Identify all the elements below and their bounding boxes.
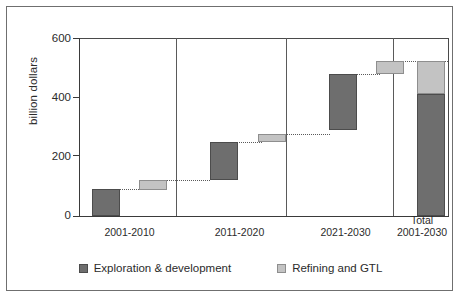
legend-swatch-refining-icon — [277, 264, 286, 273]
legend-swatch-exploration-icon — [79, 264, 88, 273]
chart-frame: billion dollars 600 400 200 0 2001-2 — [6, 6, 453, 291]
legend-label-exploration: Exploration & development — [94, 262, 231, 274]
x-label-2001-2010: 2001-2010 — [82, 226, 177, 238]
legend-item-refining: Refining and GTL — [277, 262, 382, 274]
group-separator-1 — [176, 38, 177, 216]
bar-exploration-2021-2030 — [329, 74, 357, 130]
bar-refining-total — [417, 61, 445, 94]
x-label-2021-2030: 2021-2030 — [298, 226, 393, 238]
connector-4 — [286, 134, 330, 135]
bar-exploration-2011-2020 — [210, 142, 238, 181]
chart-legend: Exploration & development Refining and G… — [7, 262, 454, 274]
connector-1 — [119, 189, 141, 190]
bar-refining-2021-2030 — [376, 61, 404, 74]
legend-item-exploration: Exploration & development — [79, 262, 231, 274]
y-tick-label-0: 0 — [7, 209, 71, 221]
x-label-total-line1: Total — [393, 214, 451, 226]
connector-5 — [357, 74, 380, 75]
x-label-total-line2: 2001-2030 — [393, 226, 451, 238]
y-tick-label-200: 200 — [7, 150, 71, 162]
bar-exploration-2001-2010 — [92, 189, 120, 215]
connector-3 — [239, 142, 262, 143]
connector-2 — [166, 180, 210, 181]
y-tick-label-600: 600 — [7, 32, 71, 44]
group-separator-2 — [286, 38, 287, 216]
legend-label-refining: Refining and GTL — [292, 262, 382, 274]
bar-refining-2011-2020 — [258, 134, 286, 142]
y-axis-line — [79, 38, 80, 216]
bar-refining-2001-2010 — [139, 180, 167, 190]
y-tick-label-400: 400 — [7, 91, 71, 103]
bar-exploration-total — [417, 94, 445, 215]
x-label-2011-2020: 2011-2020 — [192, 226, 287, 238]
